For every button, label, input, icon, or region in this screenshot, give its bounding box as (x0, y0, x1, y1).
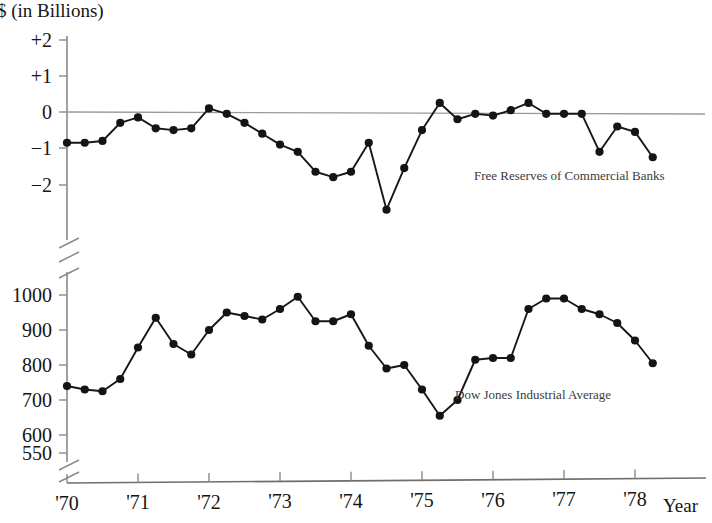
data-point (223, 110, 231, 118)
data-point (595, 148, 603, 156)
data-point (524, 305, 532, 313)
data-point (471, 356, 479, 364)
free-reserves-annotation: Free Reserves of Commercial Banks (474, 168, 665, 183)
data-point (489, 112, 497, 120)
data-point (631, 336, 639, 344)
data-point (631, 128, 639, 136)
data-point (418, 126, 426, 134)
data-point (507, 106, 515, 114)
data-point (347, 310, 355, 318)
data-point (595, 310, 603, 318)
data-point (365, 139, 373, 147)
data-point (311, 317, 319, 325)
data-point (471, 110, 479, 118)
data-point (205, 104, 213, 112)
data-point (152, 124, 160, 132)
x-axis-name: Year (663, 495, 699, 516)
data-point (507, 354, 515, 362)
data-point (240, 312, 248, 320)
panel-free-reserves: +2 +1 0 −1 −2 Free Reserves of Commercia… (31, 29, 705, 262)
data-point (63, 139, 71, 147)
data-point (453, 115, 461, 123)
data-point (613, 122, 621, 130)
x-axis-tick-label: '78 (623, 488, 647, 510)
x-axis-tick-label: '74 (339, 490, 363, 512)
data-point (560, 294, 568, 302)
data-point (524, 99, 532, 107)
x-axis-line (67, 478, 706, 483)
data-point (294, 293, 302, 301)
chart-figure: $ (in Billions) +2 +1 0 −1 −2 (0, 0, 712, 523)
data-point (258, 315, 266, 323)
data-point (240, 119, 248, 127)
data-point (81, 139, 89, 147)
top-panel-y-ticks (59, 40, 67, 185)
data-point (542, 110, 550, 118)
bottom-panel-ytick-label-1000: 1000 (12, 284, 52, 306)
data-point (205, 326, 213, 334)
data-point (649, 359, 657, 367)
data-point (116, 375, 124, 383)
free-reserves-line (67, 103, 653, 210)
data-point (116, 119, 124, 127)
bottom-panel-ytick-label-700: 700 (22, 389, 52, 411)
data-point (329, 173, 337, 181)
data-point (542, 294, 550, 302)
data-point (489, 354, 497, 362)
top-panel-ytick-label-1: +1 (31, 65, 52, 87)
data-point (578, 110, 586, 118)
data-point (98, 137, 106, 145)
data-point (63, 382, 71, 390)
bottom-panel-ytick-label-900: 900 (22, 319, 52, 341)
top-panel-zero-line (67, 112, 705, 114)
data-point (613, 319, 621, 327)
data-point (223, 308, 231, 316)
top-panel-ytick-label-2: +2 (31, 29, 52, 51)
data-point (649, 153, 657, 161)
chart-svg: $ (in Billions) +2 +1 0 −1 −2 (0, 0, 712, 523)
data-point (436, 99, 444, 107)
x-axis-tick-label: '76 (481, 489, 505, 511)
bottom-panel-axis-break-top (59, 268, 79, 278)
data-point (98, 387, 106, 395)
panel-dow-jones: 1000 900 800 700 600 550 Dow Jones Indus… (12, 268, 657, 482)
bottom-panel-y-ticks (59, 295, 67, 453)
data-point (311, 168, 319, 176)
x-axis-tick-labels: '70'71'72'73'74'75'76'77'78 (55, 488, 647, 514)
bottom-panel-axis-break-bottom (59, 460, 79, 482)
data-point (382, 206, 390, 214)
data-point (294, 148, 302, 156)
chart-unit-title: $ (in Billions) (0, 0, 104, 22)
data-point (258, 130, 266, 138)
data-point (276, 305, 284, 313)
data-point (276, 140, 284, 148)
x-axis-tick-label: '73 (268, 490, 292, 512)
data-point (187, 124, 195, 132)
x-axis-tick-label: '77 (552, 488, 576, 510)
data-point (400, 164, 408, 172)
data-point (436, 412, 444, 420)
data-point (365, 342, 373, 350)
data-point (347, 168, 355, 176)
data-point (134, 343, 142, 351)
top-panel-axis-break (59, 238, 79, 262)
x-axis-tick-label: '71 (126, 491, 150, 513)
x-axis-tick-label: '70 (55, 492, 79, 514)
data-point (578, 305, 586, 313)
data-point (418, 385, 426, 393)
data-point (134, 113, 142, 121)
data-point (169, 340, 177, 348)
data-point (382, 364, 390, 372)
data-point (400, 361, 408, 369)
data-point (152, 314, 160, 322)
bottom-panel-ytick-label-550: 550 (22, 442, 52, 464)
data-point (187, 350, 195, 358)
x-axis-tick-label: '72 (197, 491, 221, 513)
top-panel-ytick-label-minus1: −1 (31, 137, 52, 159)
data-point (329, 317, 337, 325)
data-point (169, 126, 177, 134)
dow-jones-annotation: Dow Jones Industrial Average (455, 387, 611, 402)
top-panel-ytick-label-minus2: −2 (31, 174, 52, 196)
x-axis-tick-label: '75 (410, 489, 434, 511)
data-point (560, 110, 568, 118)
